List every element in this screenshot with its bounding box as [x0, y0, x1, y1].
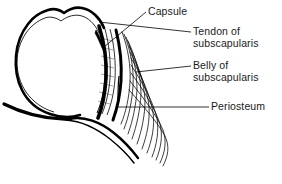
label-tendon-of-subscapularis: Tendon of subscapularis — [193, 26, 259, 49]
label-belly-of-subscapularis: Belly of subscapularis — [193, 60, 259, 83]
label-tendon-line2: subscapularis — [193, 38, 259, 50]
label-tendon-line1: Tendon of — [193, 25, 240, 37]
anatomical-figure: Capsule Tendon of subscapularis Belly of… — [0, 0, 282, 184]
leader-belly — [136, 66, 191, 72]
label-belly-line2: subscapularis — [193, 72, 259, 84]
caption-partial — [8, 176, 158, 182]
bone-neck-contour — [4, 104, 138, 163]
label-capsule: Capsule — [148, 6, 187, 18]
leader-tendon — [99, 22, 191, 32]
label-periosteum: Periosteum — [211, 101, 265, 113]
humeral-head-outline — [16, 8, 104, 117]
label-belly-line1: Belly of — [193, 59, 228, 71]
